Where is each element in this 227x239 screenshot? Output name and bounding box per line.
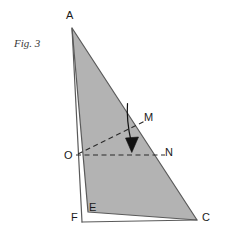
vertex-label-o: O [64,150,73,161]
vertex-label-m: M [144,112,153,123]
vertex-label-a: A [66,10,73,21]
line-f-c [82,220,197,222]
figure-caption: Fig. 3 [14,38,40,49]
figure-3-diagram: Fig. 3 A M N O E F C [0,0,227,239]
geometry-canvas [0,0,227,239]
vertex-label-f: F [71,212,78,223]
vertex-label-e: E [89,202,96,213]
shaded-triangle [72,28,197,220]
vertex-label-n: N [165,147,173,158]
vertex-label-c: C [202,212,210,223]
